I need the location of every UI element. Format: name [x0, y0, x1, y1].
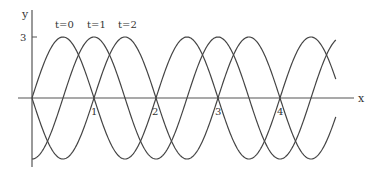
x-axis-label: x — [358, 92, 365, 105]
legend-t0: t=0 — [55, 19, 74, 30]
y-tick-label-3: 3 — [20, 32, 26, 43]
x-tick-label-4: 4 — [277, 106, 283, 117]
wave-chart: y x 3 1 2 3 4 t=0 t=1 t=2 — [0, 0, 380, 176]
legend-t1: t=1 — [87, 19, 106, 30]
x-tick-label-3: 3 — [215, 106, 221, 117]
x-tick-label-1: 1 — [91, 106, 97, 117]
y-axis-label: y — [21, 8, 29, 21]
legend-t2: t=2 — [118, 19, 137, 30]
